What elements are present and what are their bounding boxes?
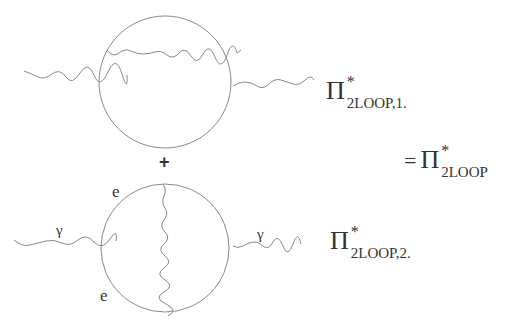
external-photon-left-1 bbox=[24, 63, 127, 84]
subscript: 2LOOP bbox=[441, 164, 488, 180]
electron-loop-2 bbox=[101, 184, 229, 312]
internal-photon-2 bbox=[159, 184, 173, 316]
superscript-star: * bbox=[347, 73, 355, 90]
superscript-star: * bbox=[351, 223, 359, 240]
internal-photon-1 bbox=[107, 46, 241, 64]
subscript: 2LOOP,2. bbox=[351, 245, 411, 261]
electron-loop-1 bbox=[99, 16, 231, 148]
result-label: = Π*2LOOP bbox=[404, 145, 494, 175]
superscript-star: * bbox=[441, 142, 449, 159]
pi-symbol: Π bbox=[420, 145, 439, 174]
external-photon-right-2 bbox=[233, 237, 301, 253]
photon-label-right: γ bbox=[257, 226, 264, 243]
pi-symbol: Π bbox=[330, 226, 349, 255]
term-2-label: Π*2LOOP,2. bbox=[330, 226, 417, 256]
pi-symbol: Π bbox=[326, 76, 345, 105]
photon-label-left: γ bbox=[56, 222, 63, 239]
electron-label-top: e bbox=[112, 182, 120, 202]
external-photon-right-1 bbox=[233, 77, 314, 88]
electron-label-bottom: e bbox=[100, 286, 108, 306]
equals-sign: = bbox=[404, 148, 416, 173]
subscript: 2LOOP,1. bbox=[347, 95, 407, 111]
term-1-label: Π*2LOOP,1. bbox=[326, 76, 413, 106]
plus-operator: + bbox=[159, 152, 170, 173]
